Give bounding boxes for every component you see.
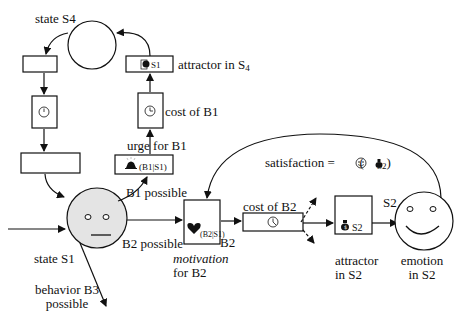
satisfaction-open-paren: ( (359, 155, 363, 170)
b3-possible-label: behavior B3 possible (32, 283, 102, 311)
attractor-s2-content-text: S2 (352, 221, 363, 235)
s2-entry-label: S2 (383, 196, 397, 210)
emotion-label-line1: emotion (394, 254, 450, 268)
cost-b1-box (138, 93, 163, 128)
attractor-s2-label-line1: attractor (335, 254, 378, 268)
emotion-s2-face (395, 192, 453, 250)
dashed-branch-down (303, 230, 314, 243)
b2-possible-label: B2 possible (122, 237, 183, 251)
state-s4-circle (68, 21, 116, 69)
left-wide-box (21, 153, 80, 173)
s1-left-eye (85, 215, 91, 220)
urge-b1-label: urge for B1 (127, 139, 187, 153)
cost-b2-label: cost of B2 (243, 200, 296, 214)
left-top-box (23, 56, 57, 72)
motivation-label-line2: for B2 (173, 266, 229, 280)
attractor-s4-label: attractor in S4 (178, 58, 250, 75)
state-s1-face (67, 188, 127, 248)
state-s4-label: state S4 (35, 12, 76, 26)
cost-b1-label: cost of B1 (165, 105, 218, 119)
satisfaction-formula: satisfaction =( S2) (265, 156, 391, 173)
emotion-left-eye (407, 207, 413, 212)
emotion-s2-label: emotion in S2 (394, 254, 450, 282)
satisfaction-close-paren: ) (387, 155, 391, 170)
b3-label-line2: possible (32, 297, 102, 311)
motivation-b2-label: motivation for B2 (173, 252, 229, 280)
satisfaction-sub: S2 (377, 161, 387, 171)
attractor-s4-content-sub: S1 (151, 58, 161, 72)
state-s1-label: state S1 (34, 252, 75, 266)
motivation-label-line1: motivation (173, 252, 229, 266)
satisfaction-label: satisfaction (265, 155, 324, 170)
attractor-s4-label-text: attractor in S (178, 57, 245, 72)
motivation-side-label: B2 (220, 236, 235, 250)
arrow-attractor-to-s4 (117, 33, 150, 56)
satisfaction-equals-spacer: = (327, 156, 355, 170)
emotion-label-line2: in S2 (394, 268, 450, 282)
motivation-diagram: $ state S4 S1 attractor in S4 cost of B1… (0, 0, 460, 318)
b3-label-line1: behavior B3 (32, 283, 102, 297)
left-clock-box (32, 96, 57, 128)
emotion-right-eye (430, 207, 436, 212)
attractor-s2-label-line2: in S2 (335, 268, 378, 282)
urge-b1-content-text: (B1|S1) (139, 160, 167, 174)
diagram-canvas: $ (0, 0, 460, 318)
attractor-s4-label-sub: 4 (245, 63, 250, 73)
svg-text:$: $ (344, 224, 347, 230)
arrow-wide-box-to-s1 (45, 174, 64, 197)
arrow-s4-to-left-box (46, 33, 68, 54)
attractor-s2-label: attractor in S2 (335, 254, 378, 282)
s1-right-eye (103, 215, 109, 220)
b1-possible-label: B1 possible (126, 186, 187, 200)
